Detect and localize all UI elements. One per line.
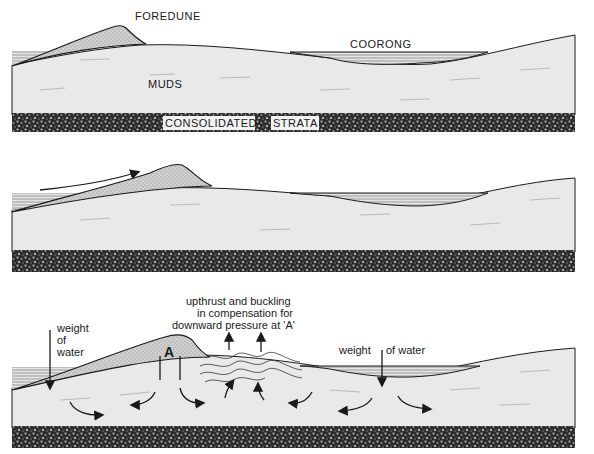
weight-left-label-2: of	[57, 334, 67, 346]
point-a-label: A	[164, 344, 174, 360]
consolidated-label: CONSOLIDATED	[165, 117, 257, 129]
weight-right-label-1: weight	[338, 344, 371, 356]
consolidated-strata-layer	[12, 250, 575, 272]
coorong-label: COORONG	[350, 38, 412, 50]
weight-left-label-1: weight	[56, 322, 89, 334]
foredune-label: FOREDUNE	[135, 10, 201, 22]
weight-left-label-3: water	[56, 346, 84, 358]
weight-right-label-2: of water	[386, 344, 425, 356]
upthrust-label-2: in compensation for	[197, 307, 293, 319]
muds-label: MUDS	[148, 78, 182, 90]
consolidated-strata-layer	[12, 426, 575, 448]
panel-2	[12, 164, 575, 272]
coorong-cross-section-diagram: FOREDUNE COORONG MUDS CONSOLIDATED STRAT…	[0, 0, 594, 454]
panel-3: weight of water A upthrust and buckling …	[12, 295, 575, 448]
panel-1: FOREDUNE COORONG MUDS CONSOLIDATED STRAT…	[12, 10, 575, 132]
strata-label: STRATA	[273, 117, 318, 129]
upthrust-label-1: upthrust and buckling	[186, 295, 291, 307]
upthrust-label-3: downward pressure at 'A'	[172, 319, 295, 331]
